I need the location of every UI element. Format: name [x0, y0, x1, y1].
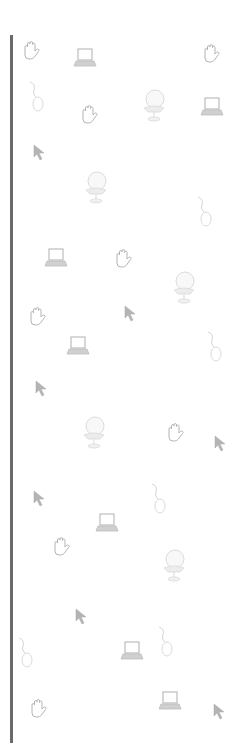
cursor-icon — [213, 703, 227, 721]
computer-icon — [82, 170, 110, 206]
mouse-icon — [148, 482, 168, 514]
laptop-icon — [95, 512, 119, 534]
mouse-icon — [204, 330, 224, 362]
laptop-icon — [66, 335, 90, 357]
cursor-icon — [33, 490, 47, 508]
computer-icon — [170, 270, 198, 306]
laptop-icon — [158, 690, 182, 712]
hand-icon — [200, 43, 222, 65]
mouse-icon — [15, 636, 35, 668]
mouse-icon — [155, 625, 175, 657]
hand-icon — [112, 248, 134, 270]
hand-icon — [50, 536, 72, 558]
laptop-icon — [73, 47, 97, 69]
left-border-line — [10, 35, 13, 743]
computer-icon — [160, 548, 188, 584]
cursor-icon — [214, 435, 228, 453]
laptop-icon — [200, 96, 224, 118]
computer-icon — [140, 88, 168, 124]
hand-icon — [78, 104, 100, 126]
hand-icon — [27, 698, 49, 720]
hand-icon — [20, 40, 42, 62]
hand-icon — [164, 422, 186, 444]
computer-icon — [80, 415, 108, 451]
cursor-icon — [75, 608, 89, 626]
laptop-icon — [120, 640, 144, 662]
cursor-icon — [35, 380, 49, 398]
hand-icon — [26, 306, 48, 328]
cursor-icon — [33, 144, 47, 162]
cursor-icon — [124, 305, 138, 323]
mouse-icon — [194, 195, 214, 227]
mouse-icon — [26, 80, 46, 112]
laptop-icon — [44, 247, 68, 269]
